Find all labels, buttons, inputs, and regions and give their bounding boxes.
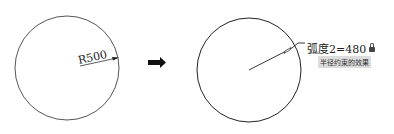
- left-circle: [15, 16, 119, 120]
- radius-constraint-caption: 半径约束的效果: [318, 56, 371, 68]
- radius-parameter-label[interactable]: 弧度2=480: [307, 40, 375, 56]
- parameter-value: 弧度2=480: [307, 43, 366, 56]
- lock-icon: [369, 47, 375, 52]
- right-radius-grip: [284, 48, 291, 54]
- right-arrow-icon: [148, 57, 166, 68]
- left-dimension-label: R500: [77, 48, 108, 67]
